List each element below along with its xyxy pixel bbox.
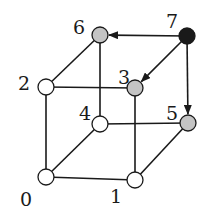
node-4-white-circle bbox=[92, 116, 108, 132]
node-2-white-circle bbox=[38, 79, 54, 95]
node-label-5: 5 bbox=[166, 102, 178, 124]
arrow-7-to-5 bbox=[187, 36, 188, 114]
edge-0-1 bbox=[46, 177, 135, 180]
arrow-7-to-3 bbox=[141, 36, 187, 82]
edge-1-5 bbox=[135, 123, 188, 180]
node-0-white-circle bbox=[38, 169, 54, 185]
arrow-7-to-6 bbox=[109, 35, 187, 36]
edge-2-6 bbox=[46, 35, 100, 87]
node-label-0: 0 bbox=[20, 188, 32, 210]
edge-0-4 bbox=[46, 124, 100, 177]
node-label-4: 4 bbox=[79, 102, 91, 124]
node-label-6: 6 bbox=[73, 16, 85, 38]
node-6-gray-circle bbox=[92, 27, 108, 43]
node-label-1: 1 bbox=[110, 185, 122, 207]
node-1-white-circle bbox=[127, 172, 143, 188]
node-label-7: 7 bbox=[166, 10, 178, 32]
node-7-black-circle bbox=[179, 28, 195, 44]
node-label-2: 2 bbox=[18, 72, 30, 94]
node-label-3: 3 bbox=[118, 66, 130, 88]
node-5-gray-circle bbox=[180, 115, 196, 131]
hypercube-diagram: 01234567 bbox=[0, 0, 211, 217]
